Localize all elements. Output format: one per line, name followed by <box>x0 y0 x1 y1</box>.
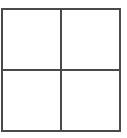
grid-cell-top-right <box>61 10 119 70</box>
grid-cell-bottom-right <box>61 70 119 130</box>
grid-cell-top-left <box>3 10 61 70</box>
canvas <box>0 0 127 138</box>
grid-cell-bottom-left <box>3 70 61 130</box>
two-by-two-grid <box>1 8 121 132</box>
